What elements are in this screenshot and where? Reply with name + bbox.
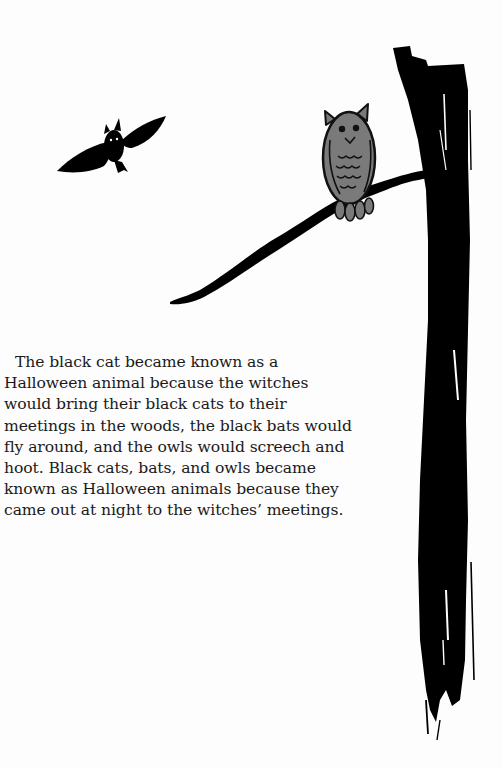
story-line: would bring their black cats to their bbox=[4, 394, 404, 415]
story-line: known as Halloween animals because they bbox=[4, 479, 404, 500]
story-line: Halloween animal because the witches bbox=[4, 373, 404, 394]
story-line: meetings in the woods, the black bats wo… bbox=[4, 416, 404, 437]
bat-icon bbox=[57, 116, 166, 173]
story-line: came out at night to the witches’ meetin… bbox=[4, 500, 404, 521]
owl-icon bbox=[323, 104, 375, 221]
story-paragraph: The black cat became known as a Hallowee… bbox=[4, 352, 404, 522]
branch-icon bbox=[170, 170, 430, 304]
tree-trunk-icon bbox=[393, 46, 474, 740]
story-line: hoot. Black cats, bats, and owls became bbox=[4, 458, 404, 479]
storybook-page: The black cat became known as a Hallowee… bbox=[0, 0, 503, 768]
story-line: The black cat became known as a bbox=[4, 352, 404, 373]
story-line: fly around, and the owls would screech a… bbox=[4, 437, 404, 458]
